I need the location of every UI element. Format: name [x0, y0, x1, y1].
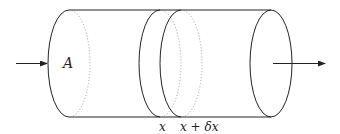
slice-x-plus-dx-back [181, 10, 202, 117]
slice-x-plus-dx-front [160, 10, 181, 117]
slice-x-back [160, 10, 181, 117]
area-label: A [63, 56, 73, 70]
cylinder-diagram: A x x + δx [0, 0, 340, 134]
diagram-svg [0, 0, 340, 134]
slice-start-label: x [159, 121, 166, 133]
slice-end-label: x + δx [180, 121, 218, 133]
slice-x-front [139, 10, 160, 117]
